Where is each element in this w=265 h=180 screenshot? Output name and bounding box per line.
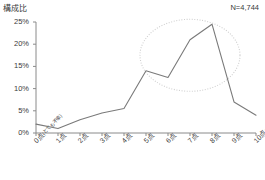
chart-container: 構成比 N=4,744 0%5%10%15%20%25% 0点(とても不幸)1点… <box>0 0 265 180</box>
plot-area <box>0 0 265 180</box>
data-series-line <box>36 24 256 128</box>
highlight-ellipse-annotation <box>140 19 240 91</box>
